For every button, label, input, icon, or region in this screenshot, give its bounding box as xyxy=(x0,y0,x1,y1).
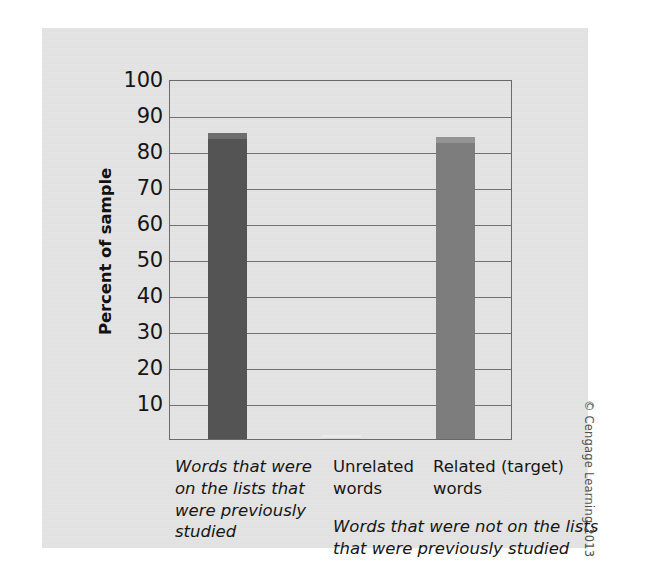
copyright-credit: © Cengage Learning 2013 xyxy=(582,400,596,557)
y-tick-label-10: 10 xyxy=(117,394,163,415)
bar-1[interactable] xyxy=(322,435,361,439)
y-tick-label-70: 70 xyxy=(117,178,163,199)
y-tick-label-50: 50 xyxy=(117,250,163,271)
y-tick-label-60: 60 xyxy=(117,214,163,235)
bar-2[interactable] xyxy=(436,137,475,439)
y-tick-label-100: 100 xyxy=(117,70,163,91)
bar-0[interactable] xyxy=(208,133,247,439)
sub-caption: Words that were not on the lists that we… xyxy=(333,516,613,560)
category-label-2: Related (target) words xyxy=(433,456,583,500)
category-label-0: Words that were on the lists that were p… xyxy=(175,456,325,543)
category-labels: Words that were on the lists that were p… xyxy=(169,456,599,566)
y-axis-tick-labels: 100908070605040302010 xyxy=(107,80,163,440)
bar-body-0 xyxy=(208,139,247,439)
y-tick-label-20: 20 xyxy=(117,358,163,379)
bar-body-2 xyxy=(436,143,475,439)
bar-body-1 xyxy=(322,438,361,439)
figure-panel: Percent of sample 100908070605040302010 … xyxy=(42,28,588,548)
y-tick-label-80: 80 xyxy=(117,142,163,163)
y-tick-label-40: 40 xyxy=(117,286,163,307)
y-tick-label-30: 30 xyxy=(117,322,163,343)
category-label-1: Unrelated words xyxy=(333,456,443,500)
y-tick-label-90: 90 xyxy=(117,106,163,127)
plot-area xyxy=(169,80,512,440)
gridline-90 xyxy=(170,117,511,118)
